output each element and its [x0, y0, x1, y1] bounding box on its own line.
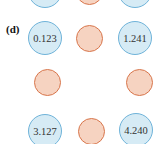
- node-bottom-left: 3.127: [28, 114, 62, 144]
- node-middle-right: [126, 69, 153, 96]
- partial-blue-node-right: [118, 0, 152, 8]
- node-top-middle: [76, 25, 103, 52]
- node-top-left: 0.123: [28, 21, 62, 55]
- node-bottom-right: 4.240: [119, 113, 153, 144]
- partial-orange-node-middle: [76, 0, 103, 5]
- node-top-right: 1.241: [118, 21, 152, 55]
- node-middle-left: [34, 69, 61, 96]
- node-value: 4.240: [124, 125, 148, 136]
- node-value: 1.241: [123, 33, 147, 44]
- node-bottom-middle: [78, 118, 105, 144]
- node-value: 0.123: [33, 33, 57, 44]
- partial-blue-node-left: [28, 0, 62, 8]
- node-value: 3.127: [33, 126, 57, 137]
- panel-label: (d): [6, 23, 19, 35]
